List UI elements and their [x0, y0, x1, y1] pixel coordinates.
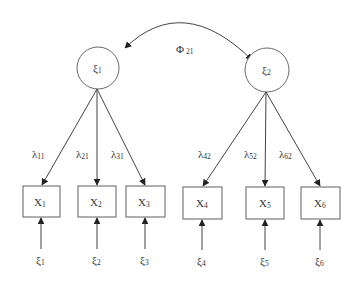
loading-arrow-x3 — [97, 89, 145, 185]
loading-label-x6: λ62 — [279, 148, 292, 161]
loading-arrow-x5 — [265, 92, 266, 186]
indicator-x6: X6 — [301, 187, 340, 219]
loading-label-x4: λ42 — [198, 148, 211, 161]
latent-factor-xi1: ξ1 — [77, 47, 119, 89]
error-label-x3: ξ3 — [140, 254, 149, 267]
error-label-x5: ξ5 — [260, 255, 269, 268]
indicator-x5: X5 — [246, 187, 284, 219]
loading-label-x3: λ31 — [111, 148, 124, 161]
indicator-x1: X1 — [23, 186, 60, 217]
loading-label-x5: λ52 — [244, 148, 257, 161]
error-label-x6: ξ6 — [315, 255, 324, 268]
loading-label-x2: λ21 — [76, 148, 89, 161]
error-label-x4: ξ4 — [197, 255, 206, 268]
loading-arrow-x4 — [203, 92, 266, 186]
error-label-x2: ξ2 — [92, 254, 101, 267]
loading-arrow-x6 — [266, 92, 320, 186]
indicator-x4: X4 — [183, 187, 222, 219]
loading-label-x1: λ11 — [32, 148, 45, 161]
indicator-x3: X3 — [126, 186, 165, 217]
sem-diagram: Φ21 ξ1 ξ2 λ11 λ21 λ31 λ42 λ52 λ62 X1 X2 … — [0, 0, 359, 283]
covariance-label: Φ21 — [176, 43, 194, 56]
latent-factor-xi2: ξ2 — [245, 48, 289, 92]
indicator-x2: X2 — [78, 186, 116, 217]
loading-arrow-x1 — [42, 89, 97, 185]
error-label-x1: ξ1 — [36, 254, 45, 267]
